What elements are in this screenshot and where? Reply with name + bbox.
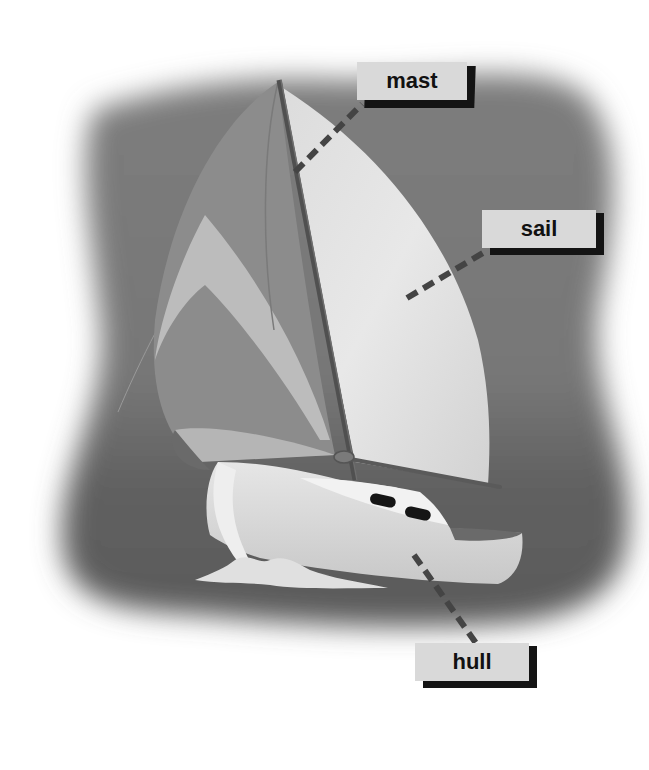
mast-label: mast: [357, 62, 477, 107]
sail-label: sail: [482, 210, 607, 258]
sail-label-box: sail: [482, 210, 596, 248]
hull-label-box: hull: [415, 643, 529, 681]
hull-label: hull: [415, 643, 540, 691]
mast-label-box: mast: [357, 62, 467, 100]
mast-collar: [334, 451, 354, 463]
sailboat-illustration: [0, 0, 649, 770]
